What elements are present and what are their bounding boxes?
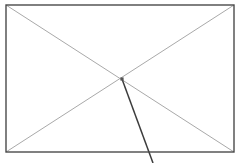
figure-canvas (0, 0, 242, 163)
diagonal-intersection-marker-shape (120, 77, 123, 80)
rectangle-diagram (0, 0, 242, 163)
